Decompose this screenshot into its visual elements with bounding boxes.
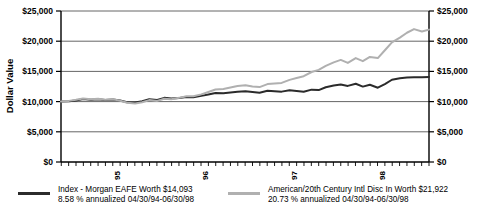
legend-swatch-index: [18, 192, 50, 195]
y-tick-label-right: $0: [437, 157, 447, 167]
performance-chart: $0$5,000$10,000$15,000$20,000$25,000 $0$…: [0, 0, 484, 217]
x-tick-label: 96: [201, 170, 210, 179]
x-tick-label: 95: [113, 170, 122, 179]
legend-index-line1: Index - Morgan EAFE Worth $14,093: [58, 185, 193, 194]
y-tick-label-left: $5,000: [27, 127, 53, 137]
y-tick-label-right: $20,000: [437, 36, 468, 46]
y-tick-label-left: $25,000: [22, 6, 53, 16]
y-tick-label-right: $5,000: [437, 127, 463, 137]
y-tick-label-right: $15,000: [437, 66, 468, 76]
y-axis-left-ticks: $0$5,000$10,000$15,000$20,000$25,000: [22, 6, 61, 167]
y-tick-label-right: $10,000: [437, 97, 468, 107]
legend-swatch-fund: [228, 192, 260, 195]
y-tick-label-left: $10,000: [22, 97, 53, 107]
y-axis-title: Dollar Value: [4, 59, 15, 113]
y-tick-label-left: $15,000: [22, 66, 53, 76]
x-axis-tick-labels: 95969798: [113, 170, 387, 179]
y-axis-right-ticks: $0$5,000$10,000$15,000$20,000$25,000: [429, 6, 468, 167]
y-tick-label-left: $20,000: [22, 36, 53, 46]
y-tick-label-right: $25,000: [437, 6, 468, 16]
legend-fund-line1: American/20th Century Intl Disc In Worth…: [268, 185, 448, 194]
legend-index-line2: 8.58 % annualized 04/30/94-06/30/98: [58, 195, 194, 204]
chart-legend: Index - Morgan EAFE Worth $14,093 8.58 %…: [0, 183, 484, 217]
x-tick-label: 97: [290, 170, 299, 179]
x-tick-label: 98: [378, 170, 387, 179]
legend-fund-line2: 20.73 % annualized 04/30/94-06/30/98: [268, 195, 409, 204]
y-tick-label-left: $0: [44, 157, 54, 167]
